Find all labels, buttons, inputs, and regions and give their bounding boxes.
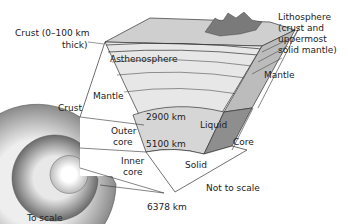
- label-inner-core: Inner: [121, 156, 145, 166]
- label-outer-core: Outer: [111, 126, 137, 136]
- label-mantle-left: Mantle: [93, 91, 124, 101]
- label-lithosphere: Lithosphere: [278, 12, 331, 22]
- label-mantle-right: Mantle: [264, 70, 295, 80]
- label-lithosphere-3: uppermost: [278, 34, 327, 44]
- label-depth-5100: 5100 km: [146, 139, 186, 149]
- label-depth-6378: 6378 km: [147, 202, 187, 212]
- label-crust-thickness-2: thick): [62, 40, 87, 50]
- to-scale-globe: [0, 104, 120, 224]
- label-core: Core: [233, 137, 254, 147]
- label-lithosphere-2: (crust and: [278, 23, 324, 33]
- label-lithosphere-4: solid mantle): [278, 45, 337, 55]
- label-liquid: Liquid: [200, 120, 227, 130]
- label-outer-core-2: core: [113, 137, 133, 147]
- label-asthenosphere: Asthenosphere: [110, 54, 178, 64]
- wedge-top-face: [105, 18, 295, 46]
- earth-interior-diagram: Crust (0–100 km thick) Asthenosphere Lit…: [0, 0, 348, 224]
- label-solid: Solid: [185, 160, 207, 170]
- label-depth-2900: 2900 km: [146, 112, 186, 122]
- label-inner-core-2: core: [123, 167, 143, 177]
- label-to-scale: To scale: [26, 213, 63, 223]
- label-crust-thickness: Crust (0–100 km: [15, 28, 90, 38]
- label-crust-left: Crust: [58, 103, 82, 113]
- label-not-to-scale: Not to scale: [206, 183, 260, 193]
